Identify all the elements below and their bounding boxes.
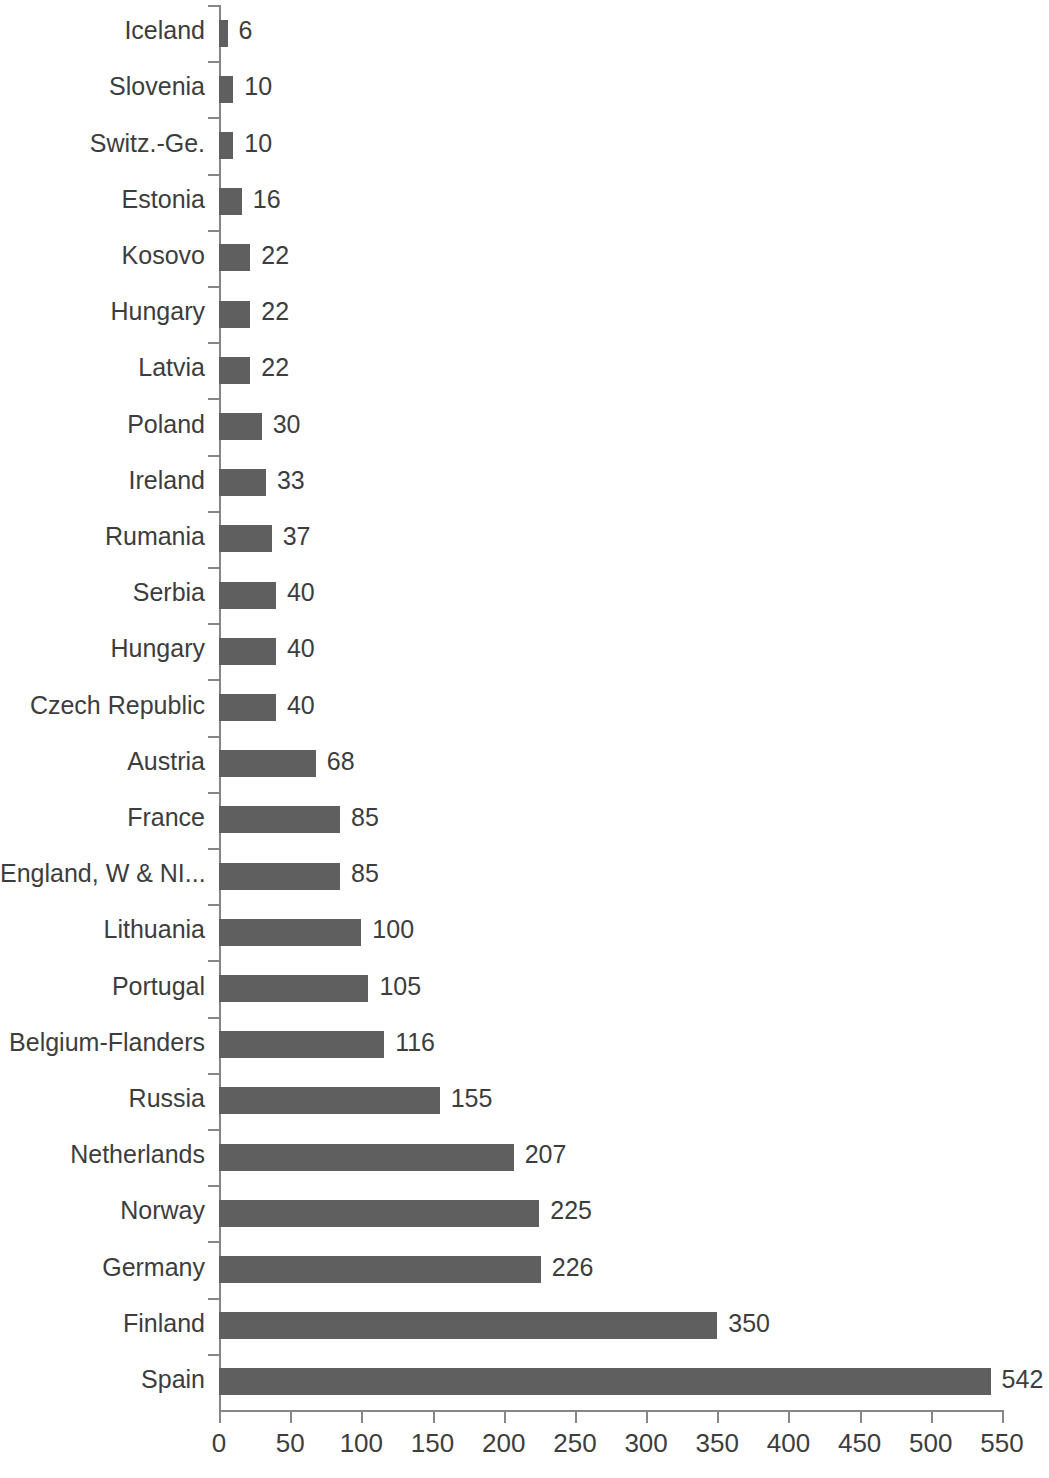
category-tick [208, 848, 219, 850]
bar-value-label: 116 [395, 1028, 435, 1057]
category-label: Hungary [0, 634, 205, 663]
category-tick [208, 623, 219, 625]
category-tick [208, 736, 219, 738]
bar [219, 413, 262, 440]
bar-value-label: 350 [728, 1309, 770, 1338]
bar-value-label: 30 [273, 410, 301, 439]
category-tick [208, 1129, 219, 1131]
category-label: Austria [0, 747, 205, 776]
category-label: Slovenia [0, 72, 205, 101]
bar [219, 357, 250, 384]
category-label: Kosovo [0, 241, 205, 270]
value-tick [219, 1412, 221, 1423]
value-tick-label: 150 [411, 1428, 454, 1459]
value-tick [290, 1412, 292, 1423]
value-tick-label: 250 [553, 1428, 596, 1459]
category-tick [208, 792, 219, 794]
value-tick [788, 1412, 790, 1423]
bar-value-label: 40 [287, 691, 315, 720]
value-tick [717, 1412, 719, 1423]
bar-value-label: 207 [525, 1140, 567, 1169]
bar [219, 76, 233, 103]
category-tick [208, 61, 219, 63]
value-tick-label: 200 [482, 1428, 525, 1459]
category-tick [208, 1073, 219, 1075]
category-label: Switz.-Ge. [0, 129, 205, 158]
value-tick [433, 1412, 435, 1423]
category-label: Netherlands [0, 1140, 205, 1169]
category-label: Estonia [0, 185, 205, 214]
category-label: Belgium-Flanders [0, 1028, 205, 1057]
bar [219, 301, 250, 328]
category-label: England, W & NI... [0, 859, 205, 888]
category-label: Latvia [0, 353, 205, 382]
bar [219, 694, 276, 721]
category-tick [208, 511, 219, 513]
bar-value-label: 10 [244, 72, 272, 101]
bar [219, 525, 272, 552]
category-label: Ireland [0, 466, 205, 495]
bar-value-label: 85 [351, 859, 379, 888]
bar-value-label: 37 [283, 522, 311, 551]
value-tick-label: 0 [212, 1428, 226, 1459]
category-label: Spain [0, 1365, 205, 1394]
category-tick [208, 342, 219, 344]
value-tick [504, 1412, 506, 1423]
bar-value-label: 105 [379, 972, 421, 1001]
bar [219, 638, 276, 665]
category-label: Norway [0, 1196, 205, 1225]
category-label: Czech Republic [0, 691, 205, 720]
value-tick-label: 450 [838, 1428, 881, 1459]
category-label: Rumania [0, 522, 205, 551]
value-axis-line [219, 1410, 1004, 1412]
category-label: Serbia [0, 578, 205, 607]
category-tick [208, 567, 219, 569]
bar-value-label: 68 [327, 747, 355, 776]
category-label: Portugal [0, 972, 205, 1001]
category-tick [208, 174, 219, 176]
category-label: Lithuania [0, 915, 205, 944]
value-tick-label: 500 [909, 1428, 952, 1459]
value-tick-label: 400 [767, 1428, 810, 1459]
bar-value-label: 10 [244, 129, 272, 158]
category-tick [208, 286, 219, 288]
bar [219, 20, 228, 47]
bar [219, 188, 242, 215]
category-tick [208, 1017, 219, 1019]
category-tick [208, 5, 219, 7]
category-label: France [0, 803, 205, 832]
value-tick-label: 100 [340, 1428, 383, 1459]
bar [219, 975, 368, 1002]
category-label: Iceland [0, 16, 205, 45]
value-tick-label: 350 [696, 1428, 739, 1459]
bar [219, 919, 361, 946]
category-tick [208, 1185, 219, 1187]
bar [219, 1368, 991, 1395]
bar-value-label: 40 [287, 578, 315, 607]
category-tick [208, 455, 219, 457]
bar [219, 1200, 539, 1227]
bar-value-label: 22 [261, 241, 289, 270]
bar-value-label: 225 [550, 1196, 592, 1225]
bar [219, 1144, 514, 1171]
bar [219, 750, 316, 777]
bar-value-label: 542 [1002, 1365, 1044, 1394]
value-tick [931, 1412, 933, 1423]
value-tick [860, 1412, 862, 1423]
value-tick-label: 550 [980, 1428, 1023, 1459]
category-tick [208, 1354, 219, 1356]
category-label: Hungary [0, 297, 205, 326]
category-tick [208, 1298, 219, 1300]
category-label: Finland [0, 1309, 205, 1338]
category-label: Germany [0, 1253, 205, 1282]
category-tick [208, 117, 219, 119]
value-tick [361, 1412, 363, 1423]
bar [219, 1087, 440, 1114]
value-tick [575, 1412, 577, 1423]
bar-value-label: 155 [451, 1084, 493, 1113]
value-tick [1002, 1412, 1004, 1423]
bar-value-label: 6 [239, 16, 253, 45]
bar [219, 806, 340, 833]
bar-chart: Iceland6Slovenia10Switz.-Ge.10Estonia16K… [0, 0, 1049, 1478]
value-tick-label: 50 [276, 1428, 305, 1459]
